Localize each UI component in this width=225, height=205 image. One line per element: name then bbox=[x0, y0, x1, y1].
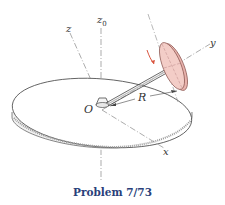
figure-caption: Problem 7/73 bbox=[0, 186, 225, 198]
diagram-figure: z0 z y x O R Problem 7/73 bbox=[0, 0, 225, 205]
label-y: y bbox=[210, 38, 216, 48]
label-z0: z0 bbox=[97, 15, 107, 28]
turntable bbox=[9, 71, 194, 154]
turntable-surface bbox=[9, 71, 194, 154]
label-x: x bbox=[163, 147, 169, 157]
label-origin-O: O bbox=[84, 104, 93, 115]
label-radius-R: R bbox=[138, 92, 146, 103]
label-z: z bbox=[66, 24, 71, 34]
diagram-svg bbox=[0, 0, 225, 205]
